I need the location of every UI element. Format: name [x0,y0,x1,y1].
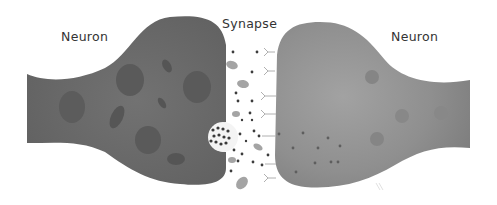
right-neuron-label: Neuron [391,29,438,44]
left-neuron-label: Neuron [61,29,108,44]
fusing-vesicle [208,122,238,152]
right-neuron-body [275,22,470,188]
receptors [261,48,276,182]
synapse-label: Synapse [222,16,277,31]
synapse-diagram: Neuron Synapse Neuron [0,0,497,205]
faint-mark [376,183,383,190]
